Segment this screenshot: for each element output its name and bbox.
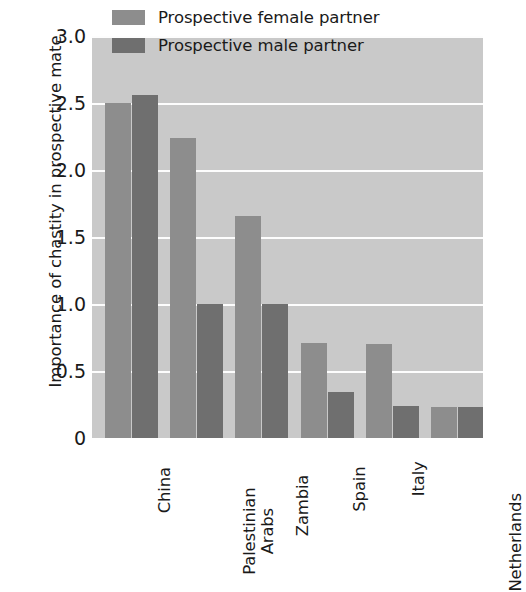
x-axis-tick: PalestinianArabs xyxy=(240,488,276,575)
bar xyxy=(431,407,457,438)
bar xyxy=(105,103,131,438)
x-axis-tick-line1: Palestinian xyxy=(239,488,258,575)
bar xyxy=(235,216,261,438)
x-axis-tick-labels: ChinaPalestinianArabsZambiaSpainItalyNet… xyxy=(92,438,483,569)
y-axis-tick: 3.0 xyxy=(42,25,86,47)
x-axis-tick-line1: Italy xyxy=(410,461,429,496)
x-axis-tick: Spain xyxy=(350,467,369,512)
bar-group xyxy=(157,36,222,438)
bar-group xyxy=(353,36,418,438)
y-axis-tick: 2.0 xyxy=(42,159,86,181)
bar-group xyxy=(92,36,157,438)
bar-group xyxy=(418,36,483,438)
x-axis-tick-line2: Arabs xyxy=(258,488,276,575)
x-axis-tick: Italy xyxy=(410,461,429,496)
y-axis-tick: 1.0 xyxy=(42,293,86,315)
y-axis-tick: 2.5 xyxy=(42,92,86,114)
x-axis-tick-line1: China xyxy=(155,467,174,513)
x-axis-tick-line1: Netherlands xyxy=(507,493,526,591)
y-axis-tick: 1.5 xyxy=(42,226,86,248)
bar xyxy=(262,304,288,438)
bar xyxy=(393,406,419,438)
bar xyxy=(458,407,483,438)
x-axis-tick: China xyxy=(155,467,174,513)
plot-area xyxy=(92,36,483,438)
legend-label: Prospective male partner xyxy=(158,36,364,55)
bar xyxy=(197,304,223,438)
bar xyxy=(366,344,392,438)
y-axis-tick-labels: 3.02.52.01.51.00.50 xyxy=(40,0,86,569)
bar-group xyxy=(222,36,287,438)
bar xyxy=(132,95,158,438)
y-axis-tick: 0 xyxy=(42,427,86,449)
bar xyxy=(301,343,327,438)
bar xyxy=(170,138,196,438)
x-axis-tick: Zambia xyxy=(293,475,312,536)
legend-swatch-icon xyxy=(112,10,145,25)
x-axis-tick-line1: Zambia xyxy=(293,475,312,536)
bar-group xyxy=(288,36,353,438)
x-axis-tick-line1: Spain xyxy=(350,467,369,512)
bar xyxy=(328,392,354,438)
legend-entry: Prospective male partner xyxy=(112,36,379,55)
legend-label: Prospective female partner xyxy=(158,8,379,27)
legend-entry: Prospective female partner xyxy=(112,8,379,27)
legend-swatch-icon xyxy=(112,38,145,53)
chart-legend: Prospective female partnerProspective ma… xyxy=(112,8,379,55)
x-axis-tick: Netherlands xyxy=(507,493,526,591)
y-axis-tick: 0.5 xyxy=(42,360,86,382)
